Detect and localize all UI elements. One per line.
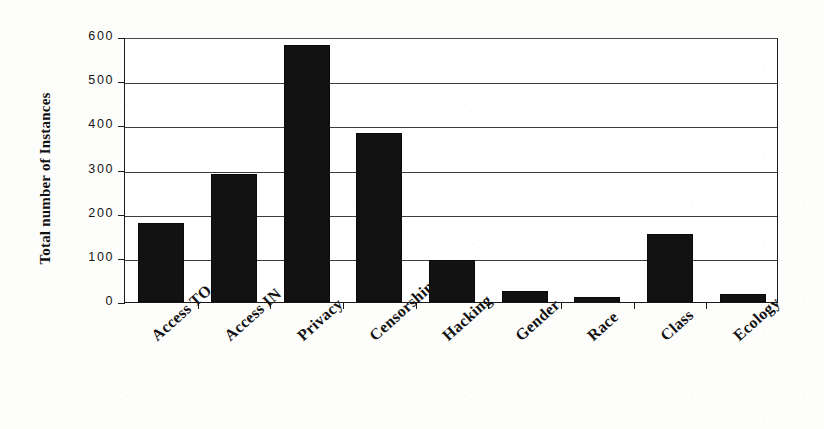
category-label-access-in: Access IN [221,331,233,344]
bar-privacy [284,45,330,302]
y-axis-tick-mark [118,259,125,260]
x-axis-tick-mark [634,302,635,309]
y-axis-tick-label: 500 [54,73,114,87]
category-label-censorship: Censorship [366,331,378,344]
y-axis-title: Total number of Instances [37,49,54,309]
bar-slot [343,39,416,302]
x-axis-tick-mark [561,302,562,309]
y-axis-tick-mark [118,126,125,127]
bar-class [647,234,693,302]
y-axis-tick-mark [118,171,125,172]
bar-access-in [211,174,257,302]
y-axis-tick-label: 200 [54,206,114,220]
category-label-hacking: Hacking [439,331,451,344]
category-label-gender: Gender [512,331,524,344]
bar-gender [502,291,548,302]
category-label-access-to: Access TO [148,331,160,344]
x-axis-tick-mark [488,302,489,309]
y-axis-tick-label: 600 [54,29,114,43]
y-axis-tick-mark [118,303,125,304]
category-label-ecology: Ecology [730,331,742,344]
x-axis-tick-mark [706,302,707,309]
y-axis-tick-mark [118,38,125,39]
bar-ecology [720,294,766,302]
bar-slot [634,39,707,302]
bar-slot [706,39,779,302]
bar-race [574,297,620,302]
y-axis-tick-mark [118,215,125,216]
bar-chart-figure: Total number of Instances 01002003004005… [0,0,824,429]
category-label-privacy: Privacy [294,331,306,344]
y-axis-tick-label: 300 [54,162,114,176]
x-axis-tick-mark [343,302,344,309]
bar-slot [125,39,198,302]
bar-hacking [429,260,475,302]
bar-slot [416,39,489,302]
x-axis-tick-mark [198,302,199,309]
y-axis-tick-label: 0 [54,294,114,308]
bar-slot [488,39,561,302]
x-axis-tick-mark [416,302,417,309]
bar-slot [270,39,343,302]
bar-slot [198,39,271,302]
x-axis-tick-mark [270,302,271,309]
bar-access-to [138,223,184,303]
y-axis-tick-label: 400 [54,117,114,131]
y-axis-tick-mark [118,82,125,83]
category-label-class: Class [657,331,669,344]
y-axis-tick-label: 100 [54,250,114,264]
bar-slot [561,39,634,302]
category-label-race: Race [584,331,596,344]
bar-censorship [356,133,402,302]
plot-area [124,38,778,303]
